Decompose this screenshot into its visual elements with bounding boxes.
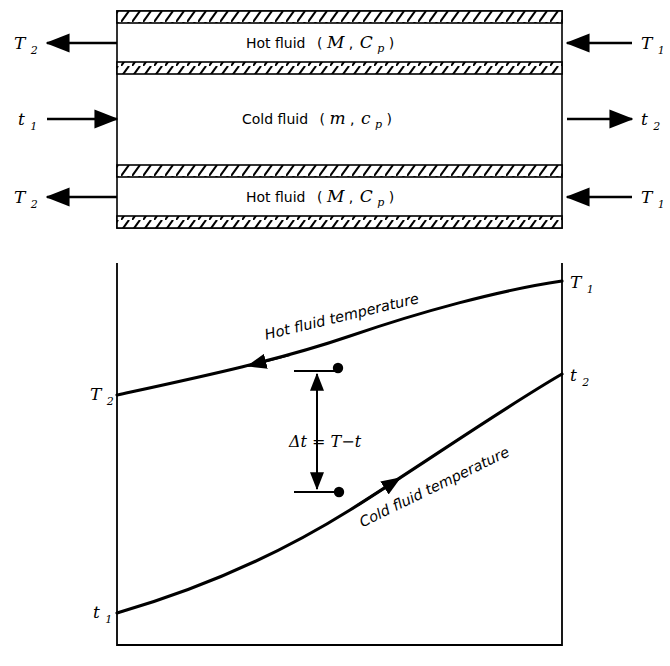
temperature-profile-chart: Δt = T−t Hot fluid temperature Cold flui… <box>90 263 594 645</box>
svg-text:t 2: t 2 <box>570 365 589 389</box>
wall-band-lower-divider <box>117 165 562 177</box>
chart-label-left-lower: t 1 <box>93 602 112 626</box>
hot-flow-direction-arrow <box>248 355 290 366</box>
flow-label-left-middle-sub: 1 <box>30 120 37 133</box>
delta-t-annotation: Δt = T−t <box>288 363 362 497</box>
flow-label-left-top-sub: 2 <box>30 44 38 57</box>
flow-label-left-top-main: T <box>14 33 27 53</box>
hot-top-paren-close: ) <box>389 35 394 51</box>
cold-cp-symbol: c <box>361 108 371 128</box>
channel-label-cold: Cold fluid ( m , c p ) <box>242 108 392 131</box>
svg-text:t 1: t 1 <box>93 602 112 626</box>
hot-top-paren-open: ( <box>317 35 322 51</box>
chart-label-right-lower-sub: 2 <box>581 376 589 389</box>
hot-top-cp-symbol: C <box>360 32 373 52</box>
cold-label-text: Cold fluid <box>242 111 308 127</box>
wall-band-bottom <box>117 216 562 228</box>
svg-text:T 2: T 2 <box>90 384 114 408</box>
flow-label-right-middle-sub: 2 <box>652 120 660 133</box>
svg-text:T 2: T 2 <box>14 187 38 211</box>
flow-label-right-middle: t 2 <box>641 109 660 133</box>
cold-mass-symbol: m <box>329 108 345 128</box>
hot-bot-paren-close: ) <box>389 189 394 205</box>
flow-label-left-middle: t 1 <box>18 109 37 133</box>
chart-label-right-upper-sub: 1 <box>587 283 594 296</box>
svg-text:t 1: t 1 <box>18 109 37 133</box>
chart-label-right-upper: T 1 <box>570 272 594 296</box>
hot-bot-mass-symbol: M <box>326 186 345 206</box>
svg-text:T 1: T 1 <box>641 187 665 211</box>
hot-curve-label: Hot fluid temperature <box>263 290 420 342</box>
svg-text:T 2: T 2 <box>14 33 38 57</box>
svg-text:T 1: T 1 <box>641 33 665 57</box>
flow-label-right-middle-main: t <box>641 109 648 129</box>
svg-text:Hot fluid ( M: Hot fluid ( M , C p ) <box>246 186 394 209</box>
chart-label-right-lower: t 2 <box>570 365 589 389</box>
flow-label-right-bottom-sub: 1 <box>658 198 665 211</box>
flow-label-right-top-main: T <box>641 33 654 53</box>
flow-label-right-top: T 1 <box>641 33 665 57</box>
wall-band-top <box>117 11 562 23</box>
channel-label-hot-bottom: Hot fluid ( M , C p ) <box>246 186 394 209</box>
hot-curve-measure-dot <box>333 363 343 373</box>
hot-fluid-curve <box>117 281 562 395</box>
hot-top-comma: , <box>349 35 353 51</box>
chart-label-right-upper-main: T <box>570 272 583 292</box>
chart-label-left-lower-sub: 1 <box>105 613 112 626</box>
svg-text:T 1: T 1 <box>570 272 594 296</box>
chart-label-right-lower-main: t <box>570 365 577 385</box>
wall-band-upper-divider <box>117 62 562 74</box>
chart-label-left-upper-main: T <box>90 384 103 404</box>
hot-bot-cp-subscript: p <box>377 196 384 209</box>
hot-bot-cp-symbol: C <box>360 186 373 206</box>
flow-label-left-bottom: T 2 <box>14 187 38 211</box>
hot-top-mass-symbol: M <box>326 32 345 52</box>
flow-label-left-bottom-sub: 2 <box>30 198 38 211</box>
channel-label-hot-top: Hot fluid ( M , C p ) <box>246 32 394 55</box>
delta-t-equation-text: Δt = T−t <box>288 432 362 451</box>
flow-label-right-bottom: T 1 <box>641 187 665 211</box>
flow-label-right-top-sub: 1 <box>658 44 665 57</box>
cold-cp-subscript: p <box>375 118 382 131</box>
flow-label-left-bottom-main: T <box>14 187 27 207</box>
chart-label-left-upper-sub: 2 <box>106 395 114 408</box>
cold-comma: , <box>350 111 354 127</box>
cold-paren-open: ( <box>320 111 325 127</box>
exchanger-body: Hot fluid ( M , C p ) Cold fluid ( m , c… <box>14 11 665 228</box>
hot-bot-comma: , <box>349 189 353 205</box>
hot-curve-label-text: Hot fluid temperature <box>263 290 420 342</box>
svg-text:t 2: t 2 <box>641 109 660 133</box>
hot-bot-paren-open: ( <box>317 189 322 205</box>
chart-label-left-lower-main: t <box>93 602 100 622</box>
flow-label-right-bottom-main: T <box>641 187 654 207</box>
hot-bot-label-text: Hot fluid <box>246 189 306 205</box>
hot-top-label-text: Hot fluid <box>246 35 306 51</box>
chart-label-left-upper: T 2 <box>90 384 114 408</box>
figure-root: Hot fluid ( M , C p ) Cold fluid ( m , c… <box>0 0 670 666</box>
svg-text:Cold fluid ( m: Cold fluid ( m , c p ) <box>242 108 392 131</box>
svg-text:Hot fluid ( M: Hot fluid ( M , C p ) <box>246 32 394 55</box>
cold-curve-measure-dot <box>334 487 344 497</box>
heat-exchanger-figure: Hot fluid ( M , C p ) Cold fluid ( m , c… <box>0 0 670 666</box>
flow-label-left-middle-main: t <box>18 109 25 129</box>
cold-paren-close: ) <box>386 111 391 127</box>
hot-top-cp-subscript: p <box>377 42 384 55</box>
flow-label-left-top: T 2 <box>14 33 38 57</box>
